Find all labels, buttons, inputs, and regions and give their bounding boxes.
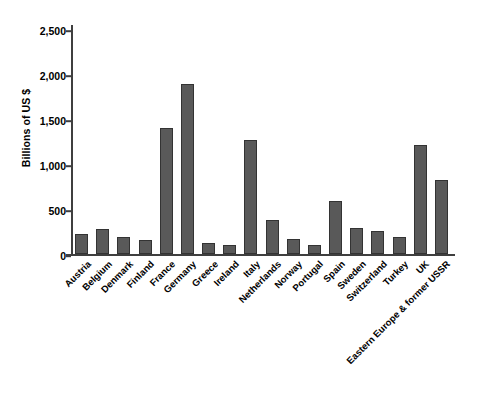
bar[interactable] — [96, 229, 109, 255]
y-axis-tick-label: 2,500 — [40, 25, 66, 37]
y-axis-title-text: Billions of US $ — [20, 89, 32, 168]
bar-slot — [287, 31, 300, 254]
bar[interactable] — [350, 228, 363, 255]
bar[interactable] — [139, 240, 152, 255]
bar[interactable] — [308, 245, 321, 255]
bar[interactable] — [329, 201, 342, 255]
bar-slot — [371, 31, 384, 254]
bar[interactable] — [244, 140, 257, 254]
bar-slot — [117, 31, 130, 254]
bar[interactable] — [266, 220, 279, 255]
bar-slot — [75, 31, 88, 254]
bar[interactable] — [160, 128, 173, 255]
bar[interactable] — [371, 231, 384, 254]
y-axis-tick-labels: 05001,0001,5002,0002,500 — [34, 0, 66, 403]
bar-slot — [435, 31, 448, 254]
bar-series — [71, 31, 452, 254]
bar[interactable] — [287, 239, 300, 255]
y-axis-tick-label: 500 — [48, 205, 66, 217]
bar[interactable] — [223, 245, 236, 254]
bar-slot — [329, 31, 342, 254]
bar-slot — [160, 31, 173, 254]
y-axis-title: Billions of US $ — [18, 0, 34, 256]
bar-slot — [223, 31, 236, 254]
bar-slot — [96, 31, 109, 254]
y-axis-tick-mark — [66, 255, 71, 257]
bar[interactable] — [414, 145, 427, 254]
bar-slot — [350, 31, 363, 254]
bar-slot — [202, 31, 215, 254]
bar-slot — [308, 31, 321, 254]
bar[interactable] — [117, 237, 130, 254]
bar[interactable] — [181, 84, 194, 255]
bar-slot — [139, 31, 152, 254]
y-axis-tick-label: 2,000 — [40, 70, 66, 82]
y-axis-tick-label: 1,500 — [40, 115, 66, 127]
bar-slot — [414, 31, 427, 254]
bar[interactable] — [202, 243, 215, 254]
bar[interactable] — [393, 237, 406, 255]
bar-slot — [393, 31, 406, 254]
plot-area — [71, 31, 452, 256]
bar[interactable] — [435, 180, 448, 254]
bar[interactable] — [75, 234, 88, 255]
bar-chart-figure: Billions of US $ 05001,0001,5002,0002,50… — [0, 0, 482, 403]
x-axis-tick-labels: AustriaBelgiumDenmarkFinlandFranceGerman… — [71, 259, 452, 403]
bar-slot — [266, 31, 279, 254]
bar-slot — [244, 31, 257, 254]
x-axis-line — [66, 254, 455, 256]
y-axis-tick-label: 1,000 — [40, 160, 66, 172]
bar-slot — [181, 31, 194, 254]
